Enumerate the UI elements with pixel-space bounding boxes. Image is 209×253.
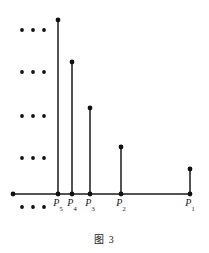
stem-point-p4 xyxy=(70,60,75,197)
ellipsis-dot xyxy=(42,156,46,160)
ellipsis-dot xyxy=(20,28,24,32)
stem-base-dot xyxy=(119,192,124,197)
point-label-subscript: 3 xyxy=(92,205,95,212)
point-label-p3: P3 xyxy=(85,198,94,211)
point-label-subscript: 5 xyxy=(60,205,63,212)
stem-top-dot xyxy=(119,145,124,150)
figure-container: P1P2P3P4P5 图 3 xyxy=(0,0,209,253)
stem-point-p2 xyxy=(119,145,124,197)
ellipsis-dot xyxy=(31,114,35,118)
baseline-ellipsis-dot xyxy=(42,205,46,209)
x-axis xyxy=(11,192,190,197)
stem-base-dot xyxy=(188,192,193,197)
figure-caption: 图 3 xyxy=(0,231,209,246)
point-label-p4: P4 xyxy=(67,198,76,211)
ellipsis-dot xyxy=(20,70,24,74)
stem-base-dot xyxy=(70,192,75,197)
ellipsis-dot xyxy=(42,114,46,118)
stem-top-dot xyxy=(188,167,193,172)
stem-point-p5 xyxy=(56,18,61,197)
baseline-ellipsis-dots xyxy=(20,205,46,209)
ellipsis-dots-group xyxy=(20,28,46,160)
ellipsis-row-4 xyxy=(20,156,46,160)
ellipsis-dot xyxy=(31,28,35,32)
stem-top-dot xyxy=(88,106,93,111)
stem-base-dot xyxy=(88,192,93,197)
point-label-subscript: 4 xyxy=(74,205,77,212)
ellipsis-dot xyxy=(20,156,24,160)
axis-left-endpoint-dot xyxy=(11,192,16,197)
ellipsis-dot xyxy=(42,28,46,32)
point-label-p5: P5 xyxy=(53,198,62,211)
ellipsis-dot xyxy=(31,70,35,74)
ellipsis-row-1 xyxy=(20,28,46,32)
baseline-ellipsis-dot xyxy=(31,205,35,209)
ellipsis-dot xyxy=(20,114,24,118)
point-label-subscript: 2 xyxy=(123,205,126,212)
stem-point-p1 xyxy=(188,167,193,197)
baseline-ellipsis-dot xyxy=(20,205,24,209)
ellipsis-dot xyxy=(42,70,46,74)
stem-plot xyxy=(0,0,209,253)
ellipsis-dot xyxy=(31,156,35,160)
ellipsis-row-2 xyxy=(20,70,46,74)
stems-group xyxy=(56,18,193,197)
point-label-p1: P1 xyxy=(185,198,194,211)
point-label-p2: P2 xyxy=(116,198,125,211)
point-label-subscript: 1 xyxy=(192,205,195,212)
stem-top-dot xyxy=(70,60,75,65)
ellipsis-row-3 xyxy=(20,114,46,118)
stem-point-p3 xyxy=(88,106,93,197)
stem-base-dot xyxy=(56,192,61,197)
stem-top-dot xyxy=(56,18,61,23)
